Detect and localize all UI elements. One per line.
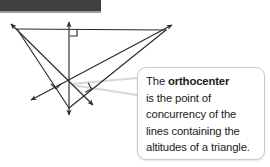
callout-line-2: is the point of <box>146 90 258 107</box>
callout-term-orthocenter: orthocenter <box>168 75 229 87</box>
orthocenter-callout: The orthocenter is the point of concurre… <box>137 67 265 160</box>
callout-line-1: The orthocenter <box>146 73 258 90</box>
callout-line-5: altitudes of a triangle. <box>146 139 258 156</box>
diagram-page: The orthocenter is the point of concurre… <box>0 0 270 167</box>
callout-text-prefix-1: The <box>146 75 168 87</box>
altitude-from-top-left <box>11 24 93 105</box>
right-angle-mark-top <box>70 29 77 36</box>
callout-leader-upper <box>71 78 137 84</box>
callout-line-4: lines containing the <box>146 123 258 140</box>
callout-line-3: concurrency of the <box>146 106 258 123</box>
triangle-side-1 <box>17 29 166 30</box>
triangle-side-3 <box>17 29 69 108</box>
